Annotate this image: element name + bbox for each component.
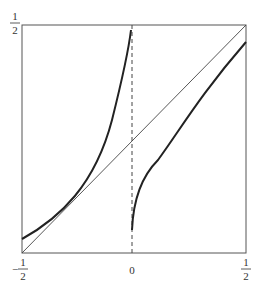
x-tick-left-sign: − — [12, 263, 18, 275]
x-tick-right: 1 2 — [241, 256, 251, 282]
right-branch-curve — [132, 42, 246, 230]
x-tick-right-num: 1 — [243, 256, 249, 268]
x-tick-left-den: 2 — [20, 270, 26, 282]
y-tick-top: 1 2 — [10, 10, 20, 36]
chart: 1 2 − 1 2 0 1 2 — [0, 0, 261, 291]
x-tick-left: − 1 2 — [12, 256, 28, 282]
y-tick-top-den: 2 — [12, 24, 18, 36]
x-tick-left-num: 1 — [20, 256, 26, 268]
y-tick-top-num: 1 — [12, 10, 18, 22]
diagonal-line — [22, 25, 246, 253]
x-tick-right-den: 2 — [243, 270, 249, 282]
x-tick-zero: 0 — [129, 264, 135, 276]
left-branch-curve — [22, 30, 131, 239]
